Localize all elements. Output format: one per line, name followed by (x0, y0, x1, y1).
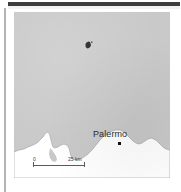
scale-bar-label-min: 0 (33, 156, 36, 162)
top-light-band (8, 6, 180, 9)
locator-map: Palermo 0 25 km (14, 12, 170, 178)
palermo-city-dot (118, 142, 121, 145)
figure-page: Palermo 0 25 km (0, 0, 181, 192)
left-vertical-rule (4, 8, 6, 192)
map-label-palermo: Palermo (93, 129, 127, 139)
scale-bar-tick-start (33, 162, 34, 167)
map-graphic (14, 12, 170, 178)
scale-bar-label-max: 25 km (68, 156, 82, 162)
scale-bar: 0 25 km (33, 158, 85, 170)
scale-bar-line (33, 165, 85, 166)
scale-bar-tick-end (84, 162, 85, 167)
